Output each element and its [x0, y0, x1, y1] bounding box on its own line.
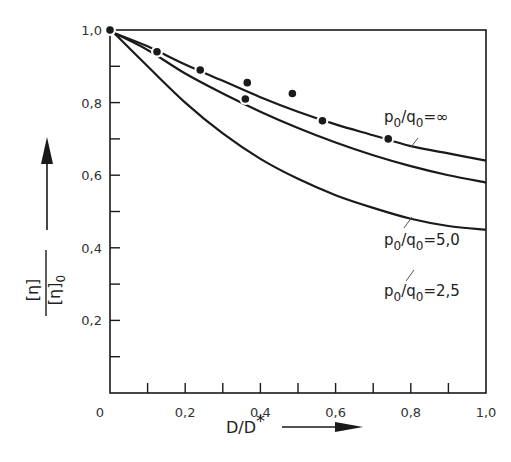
label-leaders [404, 138, 418, 281]
x-tick-label: 0,8 [400, 405, 421, 420]
x-tick-label: 0 [96, 405, 104, 420]
y-tick-label: 1,0 [81, 23, 102, 38]
data-point [243, 79, 251, 87]
y-title-numerator: [η] [23, 279, 42, 302]
svg-text:D/D*: D/D* [226, 410, 265, 437]
x-tick-label: 0,6 [325, 405, 346, 420]
data-points [104, 24, 394, 145]
y-tick-label: 0,8 [81, 96, 102, 111]
y-arrow-head-icon [41, 137, 53, 164]
x-title-text: D/D [226, 418, 256, 437]
data-point [153, 48, 161, 56]
curve-label-0: p0/q0=∞ [384, 108, 448, 130]
y-tick-label: 0,4 [81, 241, 102, 256]
curve-label-1: p0/q0=5,0 [384, 231, 460, 253]
data-point [242, 95, 250, 103]
x-title-star: * [256, 410, 265, 431]
y-tick-label: 0,2 [81, 313, 102, 328]
curve-label-2: p0/q0=2,5 [384, 282, 460, 304]
x-tick-label: 1,0 [476, 405, 497, 420]
chart: 00,20,40,60,81,00,20,40,60,81,0 p0/q0=∞p… [0, 0, 511, 462]
curve-2 [114, 33, 486, 230]
x-arrow-head-icon [335, 422, 363, 432]
y-axis-title: [η] [η]0 [23, 137, 68, 316]
data-point [289, 90, 297, 98]
y-tick-label: 0,6 [81, 168, 102, 183]
y-title-denominator: [η] [45, 283, 64, 306]
leader-line [406, 270, 414, 281]
data-point [384, 135, 392, 143]
data-point [196, 66, 204, 74]
curves [114, 33, 486, 230]
data-point [319, 117, 327, 125]
data-point [106, 26, 114, 34]
curve-0 [114, 33, 486, 161]
x-tick-label: 0,2 [175, 405, 196, 420]
curve-labels: p0/q0=∞p0/q0=5,0p0/q0=2,5 [384, 108, 460, 304]
axis-ticks: 00,20,40,60,81,00,20,40,60,81,0 [81, 23, 496, 420]
svg-text:[η]0: [η]0 [45, 275, 68, 305]
leader-line [411, 138, 418, 147]
y-title-denominator-sub: 0 [54, 275, 68, 283]
